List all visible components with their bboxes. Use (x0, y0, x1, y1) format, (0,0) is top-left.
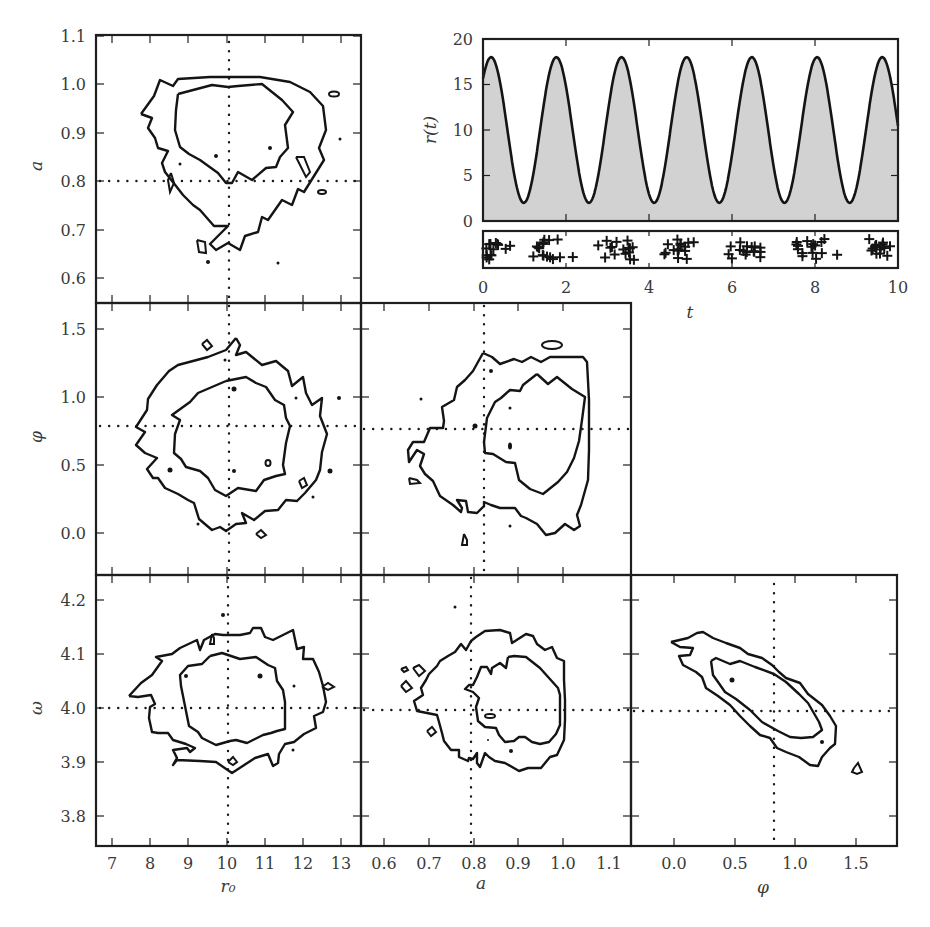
phi-ytick: 1.5 (61, 320, 86, 339)
outlier-dot (168, 468, 173, 473)
omega-ytick: 3.8 (61, 807, 86, 826)
a-xtick: 0.9 (505, 854, 530, 873)
outlier-dot (509, 407, 512, 410)
panel-phi-vs-r0: 1.5 1.0 0.5 0.0 φ (26, 303, 361, 575)
contour-68 (484, 374, 585, 494)
contour-island (318, 190, 326, 194)
outlier-dot (820, 740, 824, 744)
outlier-dot (489, 369, 493, 373)
r0-xtick: 12 (293, 854, 313, 873)
outlier-dot (420, 398, 423, 401)
r0-xtick: 11 (255, 854, 275, 873)
panel-a-vs-r0: 1.1 1.0 0.9 0.8 0.7 0.6 a (26, 27, 361, 303)
outlier-dot (509, 749, 513, 753)
panel-frame (361, 303, 631, 575)
outlier-dot (268, 146, 272, 150)
contour-68 (711, 658, 822, 738)
panel-ticks (361, 303, 631, 575)
contour-island (485, 714, 495, 718)
phi-ylabel: φ (26, 431, 46, 443)
phi-ytick: 0.5 (61, 456, 86, 475)
contour-island (299, 478, 307, 488)
contour-island (322, 683, 334, 690)
ts-xtick-6: 6 (727, 278, 737, 297)
contour-68 (175, 84, 293, 183)
contour-island (462, 534, 467, 545)
r0-xlabel: r₀ (221, 876, 236, 896)
ts-xtick-4: 4 (644, 278, 654, 297)
a-ytick: 0.9 (61, 124, 86, 143)
ts-ylabel: r(t) (420, 116, 440, 144)
outlier-dot (328, 469, 333, 474)
a-ytick: 0.7 (61, 221, 86, 240)
r0-xtick: 8 (145, 854, 155, 873)
outlier-dot (454, 606, 457, 609)
contour-95 (671, 632, 836, 766)
outlier-dot (206, 260, 210, 264)
outlier-dot (292, 749, 295, 752)
ts-ytick-0: 0 (463, 212, 473, 231)
outlier-dot (197, 523, 200, 526)
phi-xlabel: φ (757, 877, 769, 897)
ts-ytick-10: 10 (453, 121, 473, 140)
outlier-dot (508, 443, 512, 450)
ts-xtick-8: 8 (810, 278, 820, 297)
outlier-dot (473, 424, 478, 429)
event-strip-panel: 0 2 4 6 8 10 t (478, 231, 908, 322)
a-xtick: 1.0 (550, 854, 575, 873)
r0-xtick: 13 (331, 854, 351, 873)
outlier-dot (312, 496, 315, 499)
contour-island (266, 460, 271, 466)
panel-phi-vs-a (361, 303, 631, 575)
ts-ytick-15: 15 (453, 75, 473, 94)
ts-ytick-20: 20 (453, 30, 473, 49)
a-xlabel: a (476, 873, 486, 893)
outlier-dot (487, 739, 489, 741)
phi-ytick: 1.0 (61, 388, 86, 407)
contour-island (197, 240, 206, 253)
panel-omega-vs-a: 0.6 0.7 0.8 0.9 1.0 1.1 a (361, 575, 631, 893)
phi-xtick: 0.0 (661, 854, 686, 873)
outlier-dot (184, 674, 188, 678)
omega-ytick: 4.0 (61, 699, 86, 718)
r0-xtick: 7 (107, 854, 117, 873)
event-markers (481, 234, 895, 265)
outlier-dot (232, 387, 237, 392)
a-ylabel: a (26, 161, 46, 171)
contour-island (329, 92, 339, 97)
panel-omega-vs-phi: 0.0 0.5 1.0 1.5 φ (631, 575, 897, 897)
a-xtick: 0.6 (371, 854, 396, 873)
outlier-dot (214, 154, 218, 158)
contour-island (296, 157, 310, 177)
omega-ytick: 3.9 (61, 753, 86, 772)
ts-ytick-5: 5 (463, 166, 473, 185)
outlier-dot (730, 678, 735, 683)
outlier-dot (224, 359, 227, 362)
a-ytick: 1.1 (61, 27, 86, 46)
ts-xlabel: t (687, 302, 694, 322)
contour-95 (414, 630, 565, 771)
a-xtick: 0.8 (461, 854, 486, 873)
outlier-dot (179, 163, 182, 166)
outlier-dot (339, 138, 342, 141)
corner-plot-figure: 20 15 10 5 0 r(t) 0 2 4 6 8 10 t (0, 0, 930, 927)
contour-island (401, 681, 412, 692)
contour-68 (180, 653, 285, 745)
contour-island (427, 727, 436, 736)
outlier-dot (232, 469, 236, 473)
outlier-dot (258, 674, 263, 679)
contour-island (401, 667, 408, 672)
phi-ytick: 0.0 (61, 524, 86, 543)
contour-island (413, 665, 425, 676)
contour-island (202, 340, 212, 350)
contour-island (168, 173, 174, 192)
omega-ytick: 4.1 (61, 645, 86, 664)
omega-ytick: 4.2 (61, 591, 86, 610)
a-ytick: 0.6 (61, 269, 86, 288)
panel-omega-vs-r0: 4.2 4.1 4.0 3.9 3.8 ω 7 8 9 10 11 12 13 … (26, 575, 361, 896)
outlier-dot (221, 613, 225, 617)
phi-xtick: 1.5 (843, 854, 868, 873)
contour-island (542, 341, 562, 349)
r0-xtick: 9 (183, 854, 193, 873)
outlier-dot (277, 262, 280, 265)
